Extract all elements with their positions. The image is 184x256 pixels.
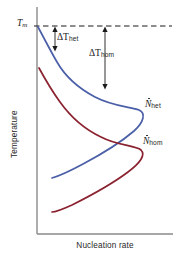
n-hom-subscript: hom — [149, 139, 162, 146]
curve-label-n-het: Nhet — [145, 100, 161, 110]
delta-t-hom-symbol: ΔT — [89, 48, 101, 58]
delta-t-het-subscript: het — [69, 35, 78, 42]
n-het-subscript: het — [151, 102, 160, 109]
nucleation-rate-figure: Tm ΔThet ΔThom Nhet Nhom Temperature Nuc… — [0, 0, 184, 256]
melting-temperature-subscript: m — [22, 21, 27, 29]
curve-n-hom — [39, 68, 143, 212]
delta-t-het-symbol: ΔT — [57, 32, 69, 42]
plot-canvas — [0, 0, 184, 256]
delta-t-hom-subscript: hom — [101, 51, 114, 58]
n-hom-symbol: N — [143, 137, 149, 147]
delta-t-hom-label: ΔThom — [89, 49, 114, 59]
x-axis-title: Nucleation rate — [37, 242, 173, 250]
n-het-symbol: N — [145, 100, 151, 110]
melting-temperature-label: Tm — [17, 19, 27, 29]
y-axis-title: Temperature — [11, 89, 19, 179]
delta-t-het-label: ΔThet — [57, 33, 78, 43]
curve-label-n-hom: Nhom — [143, 137, 162, 147]
